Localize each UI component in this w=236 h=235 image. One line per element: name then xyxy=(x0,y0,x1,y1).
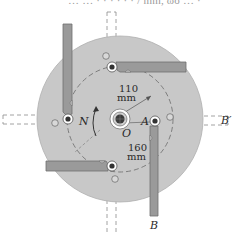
arm-bottom xyxy=(46,161,108,171)
dimension-160-unit: mm xyxy=(127,151,146,162)
pivot-top xyxy=(107,62,117,72)
label-N: N xyxy=(78,115,89,128)
rotating-disk-diagram: N O A B B′ 110 mm 160 mm xyxy=(0,0,236,235)
dimension-110-unit: mm xyxy=(117,92,136,103)
pivot-left xyxy=(63,114,73,124)
label-O: O xyxy=(122,127,131,140)
pivot-bottom xyxy=(107,161,117,171)
pivot-A xyxy=(150,116,160,126)
hub-O xyxy=(110,109,130,129)
label-A: A xyxy=(140,115,149,128)
label-B-prime: B′ xyxy=(220,114,232,127)
label-B: B xyxy=(149,219,158,232)
